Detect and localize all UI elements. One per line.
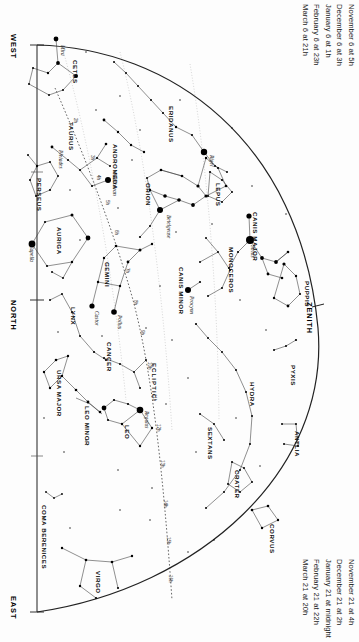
star-label-mira: Mira: [60, 45, 66, 56]
constellation-label-antlia: ANTLIA: [294, 431, 301, 457]
star-label-capella: Capella: [29, 245, 35, 262]
date-line-top-1: December 6 at 3h: [334, 4, 346, 66]
constellation-label-perseus: PERSEUS: [36, 178, 43, 211]
ra-tick-label-15h: 15h: [166, 537, 171, 545]
dates-top-block: November 6 at 5h December 6 at 3h Januar…: [299, 4, 357, 66]
date-line-top-0: November 6 at 5h: [345, 4, 357, 66]
constellation-label-puppis: PUPPIS: [304, 281, 311, 307]
star-dots: [27, 37, 301, 600]
star-label-pleiades: Pleiades: [58, 150, 64, 169]
star-label-pollux: Pollux: [117, 315, 123, 329]
ra-tick-label-13h: 13h: [160, 460, 165, 468]
constellation-label-leo: LEO: [124, 425, 131, 439]
constellation-label-orion: ORION: [145, 183, 152, 206]
star-label-castor: Castor: [94, 311, 100, 326]
date-line-top-4: March 6 at 21h: [299, 4, 311, 66]
constellation-label-gemini: GEMINI: [104, 262, 111, 287]
ra-tick-label-6h: 6h: [114, 230, 119, 235]
constellation-label-hydra: HYDRA: [249, 382, 256, 407]
dates-bottom-block: November 21 at 4h December 21 at 2h Janu…: [299, 559, 357, 638]
ra-tick-label-10h: 10h: [147, 362, 152, 370]
ra-tick-label-14h: 14h: [163, 500, 168, 508]
date-line-bottom-2: January 21 at midnight: [322, 559, 334, 638]
star-chart-page: November 6 at 5h December 6 at 3h Januar…: [0, 0, 359, 642]
star-label-betelgeuse: Betelgeuse: [166, 215, 172, 238]
direction-label-east: EAST: [9, 596, 18, 619]
ra-tick-label-9h: 9h: [140, 330, 145, 335]
constellation-label-auriga: AURIGA: [56, 227, 63, 255]
ra-tick-label-3h: 3h: [90, 155, 95, 160]
constellation-label-eridanus: ERIDANUS: [168, 106, 175, 143]
ra-tick-label-7h: 7h: [125, 268, 130, 273]
ra-tick-label-16h: 16h: [168, 575, 173, 583]
star-label-regulus: Regulus: [144, 411, 150, 428]
constellation-label-taurus: TAURUS: [68, 122, 75, 151]
constellation-label-pyxis: PYXIS: [290, 365, 297, 386]
constellation-label-ursa-major: URSA MAJOR: [56, 370, 63, 417]
constellation-label-lynx: LYNX: [70, 307, 77, 325]
star-label-aldebaran: Aldebaran: [112, 173, 118, 196]
constellation-label-lepus: LEPUS: [215, 183, 222, 206]
constellation-label-corvus: CORVUS: [269, 524, 276, 554]
date-line-bottom-4: March 21 at 20h: [299, 559, 311, 638]
ra-tick-label-2h: 2h: [73, 118, 78, 123]
constellation-label-canis-minor: CANIS MINOR: [178, 267, 185, 315]
constellation-label-virgo: VIRGO: [95, 571, 102, 594]
constellation-label-coma-berenices: COMA BERENICES: [41, 505, 48, 569]
constellation-label-sextans: SEXTANS: [207, 427, 214, 460]
constellation-label-cetus: CETUS: [72, 60, 79, 84]
constellation-label-crater: CRATER: [234, 470, 241, 499]
star-label-procyon: Procyon: [189, 296, 195, 314]
ra-tick-label-5h: 5h: [105, 200, 110, 205]
date-line-bottom-3: February 21 at 22h: [311, 559, 323, 638]
star-label-rigel: Rigel: [209, 155, 215, 166]
constellation-label-leo-minor: LEO MINOR: [84, 406, 91, 446]
ra-tick-label-11h: 11h: [152, 394, 157, 401]
star-label-sirius: Sirius: [250, 245, 256, 258]
direction-label-north: NORTH: [9, 300, 18, 331]
ra-tick-label-12h: 12h: [156, 424, 161, 432]
direction-label-west: WEST: [9, 34, 18, 59]
date-line-top-2: January 6 at 1h: [322, 4, 334, 66]
ra-tick-label-8h: 8h: [133, 300, 138, 305]
date-line-top-3: February 6 at 23h: [311, 4, 323, 66]
date-line-bottom-0: November 21 at 4h: [345, 559, 357, 638]
constellation-label-cancer: CANCER: [106, 342, 113, 372]
date-line-bottom-1: December 21 at 2h: [334, 559, 346, 638]
ra-tick-label-4h: 4h: [96, 175, 101, 180]
horizon-dome-arc: [37, 45, 324, 612]
constellation-label-monoceros: MONOCEROS: [228, 247, 235, 293]
